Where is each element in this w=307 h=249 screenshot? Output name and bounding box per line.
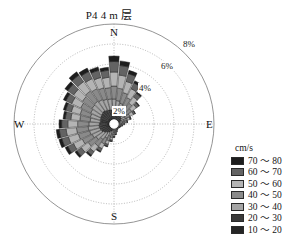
legend-item: 60 ～ 70 [231,167,305,178]
radial-tick-6: 6% [160,61,174,71]
legend-swatch [231,180,244,188]
legend-swatch [231,191,244,199]
radial-tick-4: 4% [138,83,152,93]
legend-label: 40 ～ 50 [248,190,282,200]
compass-south: S [111,210,117,222]
legend-item: 10 ～ 20 [231,224,305,235]
legend-swatch [231,157,244,165]
legend-swatch [231,226,244,234]
legend-swatch [231,214,244,222]
windrose-figure: P4 4 m 层 2% 4% 6% 8% N E S W cm/s 70 ～ 8… [0,0,307,249]
legend-label: 70 ～ 80 [248,156,282,166]
legend-label: 20 ～ 30 [248,213,282,223]
legend-label: 30 ～ 40 [248,202,282,212]
legend-swatch [231,168,244,176]
compass-east: E [206,118,213,130]
radial-tick-2: 2% [112,106,126,116]
legend-label: 60 ～ 70 [248,167,282,177]
windrose-svg [10,20,218,228]
legend-item: 30 ～ 40 [231,201,305,212]
legend-rows: 70 ～ 8060 ～ 7050 ～ 6040 ～ 5030 ～ 4020 ～ … [231,155,305,235]
legend-item: 40 ～ 50 [231,190,305,201]
legend-swatch [231,203,244,211]
legend-item: 50 ～ 60 [231,178,305,189]
legend-label: 50 ～ 60 [248,179,282,189]
radial-tick-8: 8% [183,39,195,49]
compass-north: N [110,26,118,38]
legend-label: 10 ～ 20 [248,225,282,235]
legend: cm/s 70 ～ 8060 ～ 7050 ～ 6040 ～ 5030 ～ 40… [231,143,305,236]
legend-title: cm/s [235,143,305,153]
legend-item: 20 ～ 30 [231,213,305,224]
polar-plot [10,20,218,228]
compass-west: W [14,118,24,130]
legend-item: 70 ～ 80 [231,155,305,166]
